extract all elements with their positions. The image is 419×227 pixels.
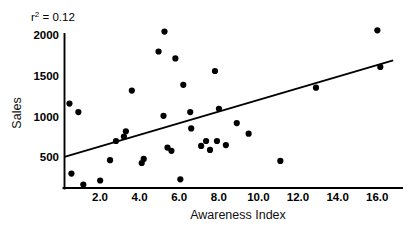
x-tick-label-12: 12.0 bbox=[287, 191, 309, 203]
data-point bbox=[129, 87, 135, 93]
r-squared-annotation: r2 = 0.12 bbox=[31, 10, 75, 23]
data-point bbox=[187, 109, 193, 115]
data-points-group bbox=[66, 27, 383, 187]
data-point bbox=[246, 131, 252, 137]
data-point bbox=[172, 55, 178, 61]
y-axis-title: Sales bbox=[10, 97, 24, 128]
data-point bbox=[107, 157, 113, 163]
data-point bbox=[234, 120, 240, 126]
data-point bbox=[203, 138, 209, 144]
data-point bbox=[155, 48, 161, 54]
scatter-plot-figure: r2 = 0.12 2000 1500 1000 500 2.0 4.0 6.0… bbox=[0, 0, 419, 227]
data-point bbox=[177, 176, 183, 182]
y-tick-label-1000: 1000 bbox=[33, 111, 59, 123]
data-point bbox=[68, 170, 74, 176]
data-point bbox=[212, 68, 218, 74]
x-tick-label-10: 10.0 bbox=[247, 191, 269, 203]
data-point bbox=[121, 133, 127, 139]
data-point bbox=[223, 142, 229, 148]
data-point bbox=[216, 106, 222, 112]
data-point bbox=[377, 64, 383, 70]
data-point bbox=[188, 125, 194, 131]
data-point bbox=[161, 28, 167, 34]
data-point bbox=[277, 158, 283, 164]
data-point bbox=[75, 109, 81, 115]
y-tick-label-500: 500 bbox=[40, 151, 59, 163]
data-point bbox=[313, 85, 319, 91]
data-point bbox=[374, 27, 380, 33]
data-point bbox=[97, 177, 103, 183]
data-point bbox=[214, 138, 220, 144]
x-tick-label-14: 14.0 bbox=[326, 191, 348, 203]
x-tick-label-2: 2.0 bbox=[92, 191, 108, 203]
data-point bbox=[113, 138, 119, 144]
data-point bbox=[123, 128, 129, 134]
y-tick-label-2000: 2000 bbox=[33, 29, 59, 41]
data-point bbox=[141, 156, 147, 162]
data-point bbox=[198, 143, 204, 149]
data-point bbox=[160, 113, 166, 119]
data-point bbox=[66, 100, 72, 106]
x-axis-title: Awareness Index bbox=[190, 208, 286, 222]
y-tick-label-1500: 1500 bbox=[33, 70, 59, 82]
chart-canvas: r2 = 0.12 2000 1500 1000 500 2.0 4.0 6.0… bbox=[0, 0, 419, 227]
x-tick-label-6: 6.0 bbox=[171, 191, 187, 203]
data-point bbox=[80, 181, 86, 187]
data-point bbox=[180, 82, 186, 88]
x-tick-label-4: 4.0 bbox=[132, 191, 148, 203]
x-tick-label-8: 8.0 bbox=[211, 191, 227, 203]
data-point bbox=[207, 147, 213, 153]
data-point bbox=[168, 148, 174, 154]
x-tick-label-16: 16.0 bbox=[366, 191, 388, 203]
